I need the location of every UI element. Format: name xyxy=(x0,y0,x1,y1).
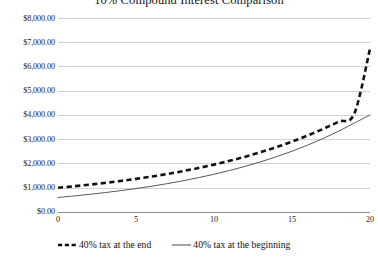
compound-interest-chart: 10% Compound Interest Comparison $8,000.… xyxy=(0,0,378,259)
plot-area xyxy=(58,18,370,212)
x-axis-tick-label: 10 xyxy=(199,215,229,225)
x-axis-tick-label: 20 xyxy=(355,215,378,225)
x-axis-tick-labels: 0 5 10 15 20 xyxy=(58,215,370,227)
series-line-tax-at-the-end xyxy=(58,49,370,188)
y-axis-tick-label: $3,000.00 xyxy=(1,135,55,144)
y-axis-tick-label: $2,000.00 xyxy=(1,159,55,168)
legend-label: 40% tax at the end xyxy=(79,239,151,251)
series-layer xyxy=(58,18,370,212)
legend-entry-tax-at-the-beginning: 40% tax at the beginning xyxy=(172,239,290,251)
x-axis-tick-label: 0 xyxy=(43,215,73,225)
legend-label: 40% tax at the beginning xyxy=(193,239,290,251)
chart-title: 10% Compound Interest Comparison xyxy=(0,0,378,7)
y-axis-tick-label: $7,000.00 xyxy=(1,38,55,47)
chart-legend: 40% tax at the end 40% tax at the beginn… xyxy=(58,236,370,254)
y-axis-tick-label: $4,000.00 xyxy=(1,110,55,119)
series-line-tax-at-the-beginning xyxy=(58,115,370,197)
y-axis-tick-label: $1,000.00 xyxy=(1,183,55,192)
y-axis-tick-label: $6,000.00 xyxy=(1,62,55,71)
y-axis-tick-label: $5,000.00 xyxy=(1,86,55,95)
y-axis-tick-label: $8,000.00 xyxy=(1,14,55,23)
dashed-line-swatch-icon xyxy=(58,240,77,250)
x-axis-line xyxy=(58,212,370,213)
x-axis-tick-label: 5 xyxy=(121,215,151,225)
x-axis-tick-label: 15 xyxy=(277,215,307,225)
solid-line-swatch-icon xyxy=(172,240,191,250)
legend-entry-tax-at-the-end: 40% tax at the end xyxy=(58,239,151,251)
